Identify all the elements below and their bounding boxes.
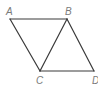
label-a: A [5, 6, 13, 17]
segment-bc [40, 19, 67, 71]
segment-ac [10, 19, 40, 71]
geometry-diagram: A B C D [0, 0, 98, 89]
segment-bd [67, 19, 94, 71]
label-d: D [92, 75, 98, 86]
label-c: C [36, 75, 44, 86]
label-b: B [65, 6, 72, 17]
